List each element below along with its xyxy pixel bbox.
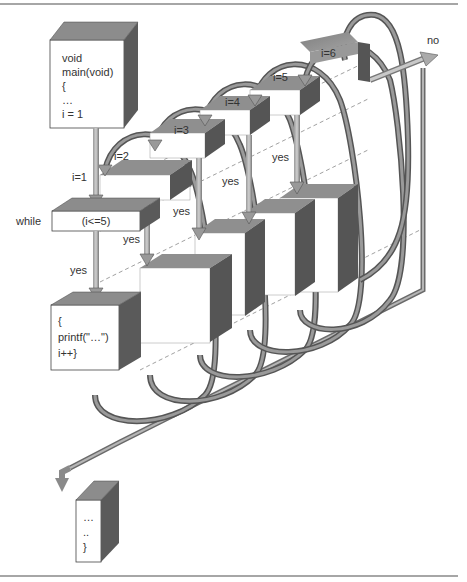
end-line-3: } [83,541,87,553]
start-line-1: void [62,52,82,64]
end-line-1: … [83,511,94,523]
while-loop-diagram: void main(void) { … i = 1 (i<=5) while {… [0,0,467,582]
condition-block: (i<=5) [52,198,160,231]
label-i6: i=6 [321,47,336,59]
while-keyword: while [15,215,41,227]
label-i4: i=4 [225,96,240,108]
end-line-2: .. [83,526,89,538]
end-block: … .. } [76,481,119,562]
body-line-3: i++} [58,347,77,359]
arrow-head-icon [55,478,69,492]
body-line-2: printf("…") [58,331,109,343]
body-line-1: { [58,315,62,327]
start-line-4: … [62,94,73,106]
arrow-yes-shaft [93,231,99,291]
condition-text: (i<=5) [82,215,111,227]
label-yes-5: yes [272,151,290,163]
start-line-5: i = 1 [62,108,83,120]
start-line-2: main(void) [62,66,113,78]
start-line-3: { [62,80,66,92]
label-yes-3: yes [173,205,191,217]
label-yes-4: yes [222,175,240,187]
label-yes-2: yes [123,233,141,245]
label-i2: i=2 [114,150,129,162]
arrow-i1-shaft [93,128,99,198]
label-i3: i=3 [174,124,189,136]
label-i1: i=1 [72,171,87,183]
body-block: { printf("…") i++} [51,292,141,370]
start-block: void main(void) { … i = 1 [50,22,138,128]
label-no: no [427,34,439,46]
label-yes-1: yes [70,264,88,276]
label-i5: i=5 [273,71,288,83]
